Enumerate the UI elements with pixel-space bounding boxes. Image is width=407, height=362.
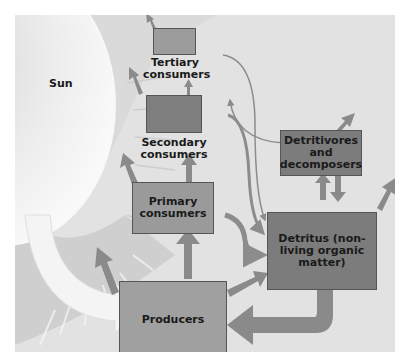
producers-box: Producers bbox=[119, 281, 227, 352]
diagram-frame: Sun Tertiary consumers Secondary consume… bbox=[15, 15, 395, 352]
arrow-secondary-tertiary bbox=[184, 79, 193, 95]
flows-to-detritus bbox=[223, 55, 265, 255]
secondary-consumers-label: Secondary consumers bbox=[135, 137, 213, 161]
primary-consumers-box: Primary consumers bbox=[132, 182, 214, 234]
detritivores-box: Detritivores and decomposers bbox=[280, 130, 362, 176]
arrow-producers-primary bbox=[176, 229, 200, 279]
arrow-detritivores-secondary bbox=[230, 100, 283, 143]
detritus-box: Detritus (non-living organic matter) bbox=[267, 212, 377, 290]
sun-disc bbox=[15, 15, 115, 245]
sun-label: Sun bbox=[49, 77, 73, 90]
tertiary-consumers-label: Tertiary consumers bbox=[143, 57, 207, 81]
arrow-detritivores-detritus bbox=[330, 175, 346, 202]
arrow-detritus-detritivores bbox=[315, 173, 331, 200]
secondary-consumers-box bbox=[146, 95, 202, 133]
tertiary-consumers-box bbox=[153, 28, 196, 55]
arrow-producers-detritus bbox=[227, 271, 268, 297]
